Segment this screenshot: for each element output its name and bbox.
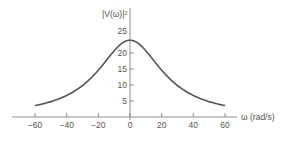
x-tick-label: −40: [59, 120, 74, 130]
x-tick-label: 60: [220, 120, 230, 130]
y-tick-label: 25: [118, 26, 128, 36]
y-axis-label: |V(ω)|²: [102, 9, 127, 19]
x-axis-label: ω (rad/s): [241, 112, 275, 122]
y-tick-label: 10: [118, 80, 128, 90]
x-tick-label: 20: [157, 120, 167, 130]
y-ticks: 510152025: [118, 26, 134, 106]
x-ticks: −60−40−200204060: [28, 113, 230, 130]
y-tick-label: 15: [118, 64, 128, 74]
y-tick-label: 20: [118, 48, 128, 58]
x-tick-label: 40: [189, 120, 199, 130]
x-tick-label: −20: [91, 120, 106, 130]
x-tick-label: 0: [128, 120, 133, 130]
chart: −60−40−200204060 510152025 |V(ω)|² ω (ra…: [0, 0, 286, 141]
y-tick-label: 5: [122, 96, 127, 106]
x-tick-label: −60: [28, 120, 43, 130]
